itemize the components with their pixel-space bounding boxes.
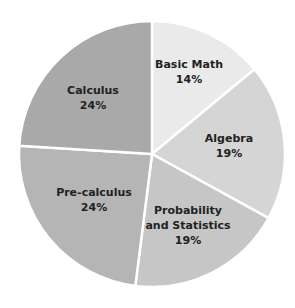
slice-percent: 19% — [216, 147, 242, 160]
pie-chart: Basic Math14%Algebra19%Probabilityand St… — [0, 0, 295, 308]
slice-name: Pre-calculus — [56, 186, 132, 199]
slice-name: Basic Math — [155, 58, 223, 71]
slice-name: Calculus — [67, 84, 119, 97]
slice-name: Probability — [154, 204, 222, 217]
slice-percent: 19% — [175, 234, 201, 247]
slice-name: Algebra — [205, 132, 253, 145]
pie-slices — [19, 21, 285, 287]
slice-pre-calculus — [19, 146, 152, 286]
slice-percent: 24% — [81, 201, 107, 214]
slice-percent: 14% — [176, 73, 202, 86]
slice-name: and Statistics — [145, 219, 231, 232]
slice-percent: 24% — [80, 99, 106, 112]
